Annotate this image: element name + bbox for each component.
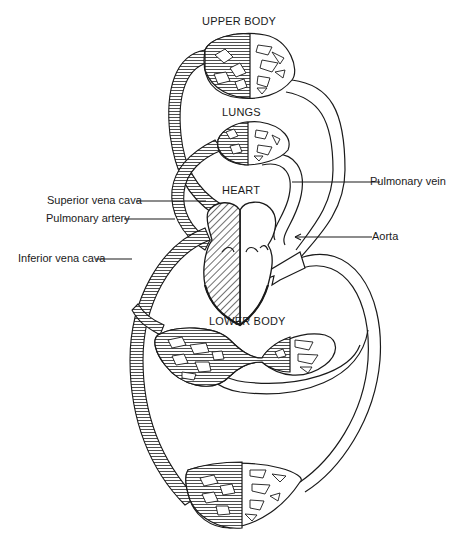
lower-body-capillary-bed bbox=[155, 328, 336, 386]
aorta-stub bbox=[268, 252, 305, 285]
aorta-to-upper-body bbox=[286, 80, 345, 258]
lungs-capillary-bed bbox=[218, 122, 289, 165]
label-pulmonary-vein: Pulmonary vein bbox=[370, 176, 446, 187]
label-upper-body: UPPER BODY bbox=[202, 16, 276, 27]
label-heart: HEART bbox=[222, 185, 260, 196]
bottom-capillary-bed bbox=[186, 462, 301, 528]
label-lungs: LUNGS bbox=[222, 107, 261, 118]
label-aorta: Aorta bbox=[372, 231, 398, 242]
circulation-diagram bbox=[0, 0, 459, 535]
label-inferior-vena-cava: Inferior vena cava bbox=[18, 253, 105, 264]
label-pulmonary-artery: Pulmonary artery bbox=[46, 213, 130, 224]
label-superior-vena-cava: Superior vena cava bbox=[47, 195, 142, 206]
heart bbox=[204, 202, 276, 325]
label-lower-body: LOWER BODY bbox=[209, 316, 286, 327]
upper-body-capillary-bed bbox=[204, 33, 295, 98]
